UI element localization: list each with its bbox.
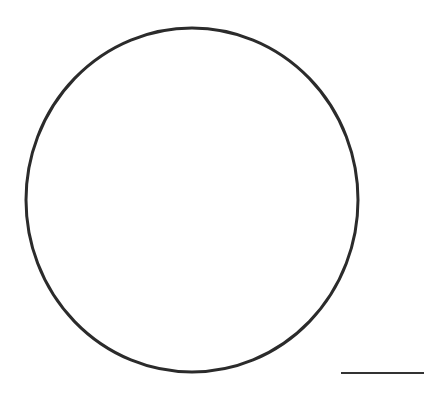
drawing-canvas (0, 0, 446, 401)
circle-outline (26, 28, 358, 372)
